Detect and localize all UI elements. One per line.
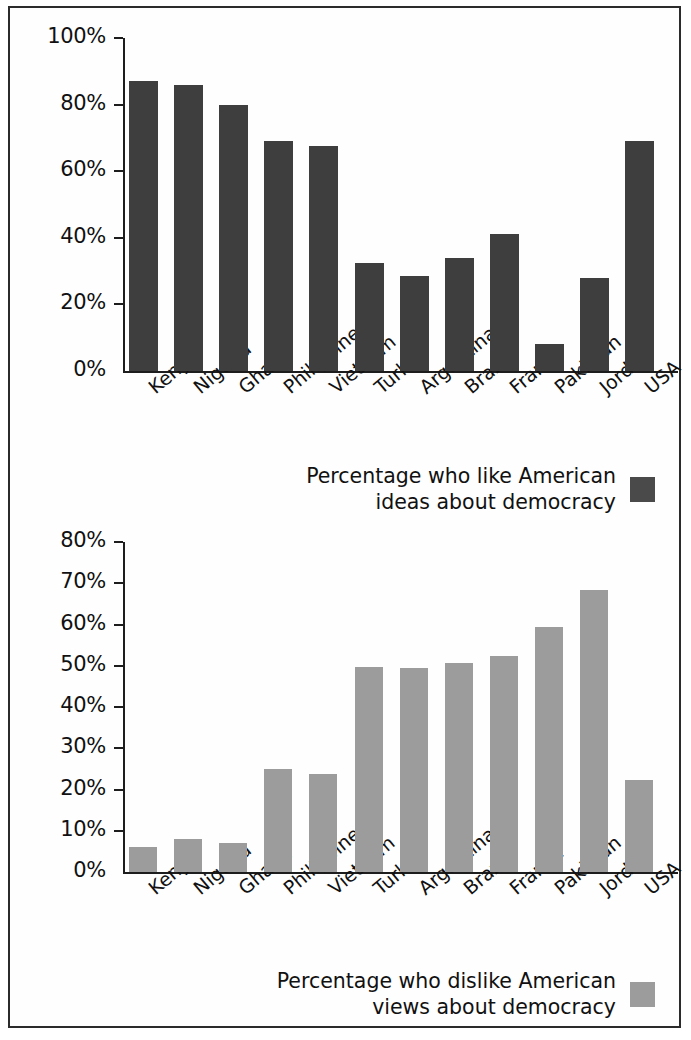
figure-frame: 0%20%40%60%80%100%KenyaNigeriaGhanaPhili… bbox=[8, 6, 681, 1028]
bar-dislike-jordan bbox=[580, 590, 608, 872]
y-tick-label-like-0: 0% bbox=[11, 357, 106, 381]
legend-label-dislike: Percentage who dislike American views ab… bbox=[277, 968, 616, 1020]
y-tick-label-dislike-8: 80% bbox=[11, 528, 106, 552]
legend-label-like: Percentage who like American ideas about… bbox=[306, 463, 616, 515]
y-tick-dislike-5 bbox=[114, 665, 123, 667]
bar-like-vietnam bbox=[309, 146, 338, 371]
bar-dislike-usa bbox=[625, 780, 653, 872]
legend-bottom: Percentage who dislike American views ab… bbox=[232, 968, 655, 1020]
bar-like-pakistan bbox=[535, 344, 564, 371]
y-axis-line-like bbox=[123, 38, 125, 373]
bar-like-france bbox=[490, 234, 519, 371]
y-tick-label-dislike-5: 50% bbox=[11, 652, 106, 676]
legend-swatch-dislike bbox=[630, 982, 655, 1007]
chart-panel-bottom: 0%10%20%30%40%50%60%70%80%KenyaNigeriaGh… bbox=[10, 520, 683, 1026]
y-tick-label-dislike-4: 40% bbox=[11, 693, 106, 717]
bar-dislike-france bbox=[490, 656, 518, 872]
y-tick-label-dislike-2: 20% bbox=[11, 776, 106, 800]
plot-area-top: 0%20%40%60%80%100%KenyaNigeriaGhanaPhili… bbox=[123, 38, 678, 371]
chart-panel-top: 0%20%40%60%80%100%KenyaNigeriaGhanaPhili… bbox=[10, 8, 683, 520]
y-tick-like-3 bbox=[114, 170, 123, 172]
bar-like-jordan bbox=[580, 278, 609, 371]
bar-dislike-brazil bbox=[445, 663, 473, 872]
bar-like-kenya bbox=[129, 81, 158, 371]
bar-like-philippines bbox=[264, 141, 293, 371]
y-tick-label-like-1: 20% bbox=[11, 290, 106, 314]
y-tick-label-like-2: 40% bbox=[11, 224, 106, 248]
y-tick-label-dislike-3: 30% bbox=[11, 734, 106, 758]
y-tick-like-1 bbox=[114, 303, 123, 305]
legend-top: Percentage who like American ideas about… bbox=[250, 463, 655, 515]
bar-like-usa bbox=[625, 141, 654, 371]
bar-like-argentina bbox=[400, 276, 429, 371]
bar-like-ghana bbox=[219, 105, 248, 371]
bar-dislike-ghana bbox=[219, 843, 247, 872]
plot-area-bottom: 0%10%20%30%40%50%60%70%80%KenyaNigeriaGh… bbox=[123, 542, 678, 872]
y-tick-label-dislike-7: 70% bbox=[11, 569, 106, 593]
y-tick-dislike-3 bbox=[114, 747, 123, 749]
bar-dislike-kenya bbox=[129, 847, 157, 872]
y-tick-dislike-7 bbox=[114, 582, 123, 584]
y-tick-dislike-6 bbox=[114, 624, 123, 626]
y-tick-dislike-4 bbox=[114, 706, 123, 708]
bar-like-nigeria bbox=[174, 85, 203, 371]
y-tick-like-5 bbox=[114, 37, 123, 39]
y-tick-dislike-1 bbox=[114, 830, 123, 832]
y-tick-label-dislike-1: 10% bbox=[11, 817, 106, 841]
bar-dislike-argentina bbox=[400, 668, 428, 872]
bar-dislike-pakistan bbox=[535, 627, 563, 872]
y-tick-dislike-8 bbox=[114, 541, 123, 543]
y-tick-label-like-3: 60% bbox=[11, 157, 106, 181]
y-tick-label-dislike-6: 60% bbox=[11, 611, 106, 635]
y-tick-label-like-5: 100% bbox=[11, 24, 106, 48]
y-tick-label-dislike-0: 0% bbox=[11, 858, 106, 882]
legend-swatch-like bbox=[630, 477, 655, 502]
bar-dislike-nigeria bbox=[174, 839, 202, 872]
bar-dislike-vietnam bbox=[309, 774, 337, 872]
y-axis-line-dislike bbox=[123, 542, 125, 874]
bar-dislike-turkey bbox=[355, 667, 383, 872]
y-tick-like-2 bbox=[114, 237, 123, 239]
bar-like-turkey bbox=[355, 263, 384, 371]
y-tick-like-4 bbox=[114, 104, 123, 106]
bar-like-brazil bbox=[445, 258, 474, 371]
y-tick-dislike-2 bbox=[114, 789, 123, 791]
bar-dislike-philippines bbox=[264, 769, 292, 872]
y-tick-label-like-4: 80% bbox=[11, 91, 106, 115]
